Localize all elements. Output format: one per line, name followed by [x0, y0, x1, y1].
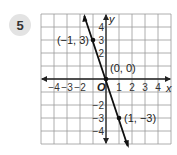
svg-text:4: 4: [155, 82, 161, 93]
svg-text:−4: −4: [93, 126, 105, 137]
svg-text:3: 3: [142, 82, 148, 93]
svg-text:4: 4: [98, 22, 104, 33]
svg-text:−3: −3: [93, 113, 105, 124]
svg-text:O: O: [97, 81, 106, 93]
coordinate-plane: xy −4−3−21234432−2−3−4O (−1, 3)(0, 0)(1,…: [0, 0, 177, 155]
svg-text:3: 3: [98, 35, 104, 46]
svg-text:−3: −3: [61, 82, 73, 93]
svg-text:x: x: [165, 82, 172, 94]
svg-text:2: 2: [129, 82, 135, 93]
svg-text:(1, −3): (1, −3): [124, 112, 156, 124]
svg-text:−4: −4: [48, 82, 60, 93]
svg-text:1: 1: [116, 82, 122, 93]
svg-text:2: 2: [98, 48, 104, 59]
svg-text:−2: −2: [74, 82, 86, 93]
svg-text:(0, 0): (0, 0): [110, 62, 136, 74]
svg-text:(−1, 3): (−1, 3): [57, 34, 89, 46]
svg-text:−2: −2: [93, 100, 105, 111]
svg-text:y: y: [108, 13, 116, 25]
